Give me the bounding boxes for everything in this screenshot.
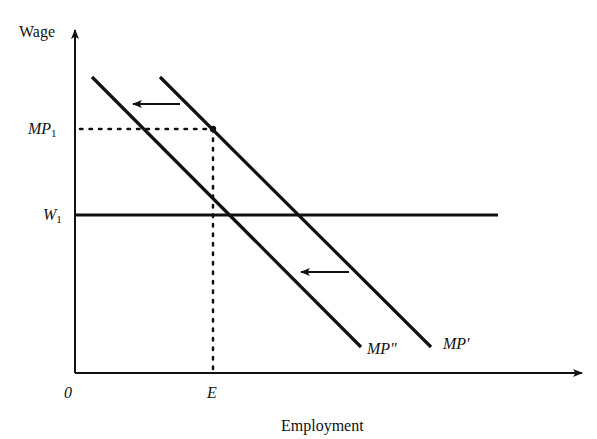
mp-prime-curve — [160, 77, 431, 347]
mp1-subscript: 1 — [51, 127, 57, 139]
diagram-canvas — [0, 0, 597, 439]
e-label: E — [207, 385, 217, 401]
mp-double-prime-label: MP″ — [367, 341, 397, 357]
mp1-base: MP — [28, 120, 51, 137]
mp-prime-label: MP′ — [443, 336, 470, 352]
labor-demand-diagram: Wage MP1 W1 MP″ MP′ 0 E Employment — [0, 0, 597, 439]
origin-label: 0 — [64, 385, 72, 401]
w1-base: W — [43, 206, 56, 223]
mp1-label: MP1 — [28, 121, 57, 139]
mp-double-prime-curve — [92, 77, 361, 347]
y-axis-label: Wage — [19, 24, 55, 40]
w1-subscript: 1 — [56, 213, 62, 225]
w1-label: W1 — [43, 207, 62, 225]
x-axis-label: Employment — [281, 418, 364, 434]
